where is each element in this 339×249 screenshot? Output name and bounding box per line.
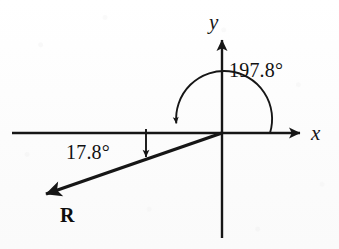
diagram-canvas: [0, 0, 339, 249]
angle-label-197: 197.8°: [229, 60, 283, 80]
angle-label-17: 17.8°: [66, 142, 110, 162]
x-axis-label: x: [311, 123, 320, 144]
vector-angle-diagram: y x 197.8° 17.8° R: [0, 0, 339, 249]
y-axis-label: y: [209, 12, 218, 33]
resultant-vector-label: R: [60, 205, 74, 225]
